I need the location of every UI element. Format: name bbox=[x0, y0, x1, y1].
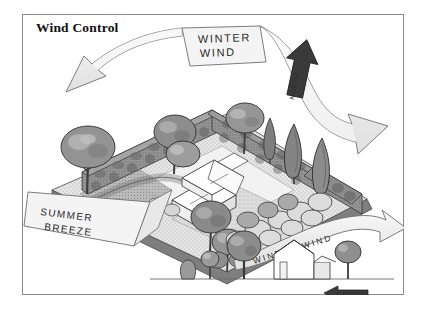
north-arrow-inset-label: NORTH bbox=[343, 291, 366, 295]
winter-wind-top-line2: WIND bbox=[200, 46, 236, 59]
conifer-tree bbox=[312, 138, 329, 200]
conifer-tree bbox=[264, 118, 276, 164]
north-arrow-inset: NORTH bbox=[324, 286, 368, 295]
deciduous-tree bbox=[166, 141, 200, 167]
inset-side-tree bbox=[335, 241, 361, 279]
winter-wind-top-line1: WINTER bbox=[198, 31, 251, 45]
wind-control-illustration: WINTER WIND NORTH SUMMER BREEZE WINTER W… bbox=[22, 14, 404, 295]
inset-shrub bbox=[180, 260, 195, 279]
figure-page: Wind Control bbox=[0, 0, 423, 310]
